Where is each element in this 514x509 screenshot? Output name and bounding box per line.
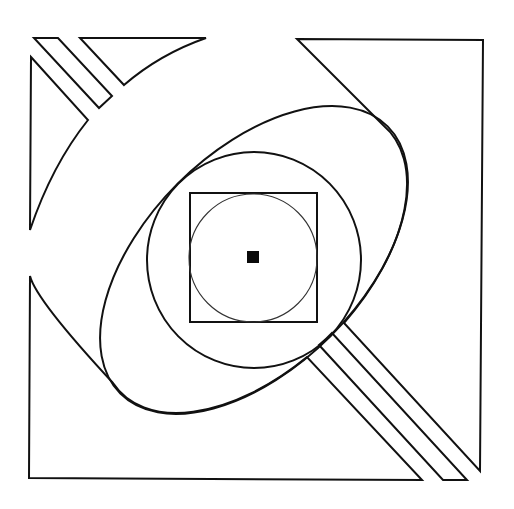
top-left-curved-triangle xyxy=(80,38,206,85)
bottom-right-stripe xyxy=(319,333,467,480)
bottom-left-shape xyxy=(29,276,422,480)
center-black-square xyxy=(247,251,259,263)
left-curved-triangle xyxy=(30,57,88,230)
geometric-drawing xyxy=(0,0,514,509)
